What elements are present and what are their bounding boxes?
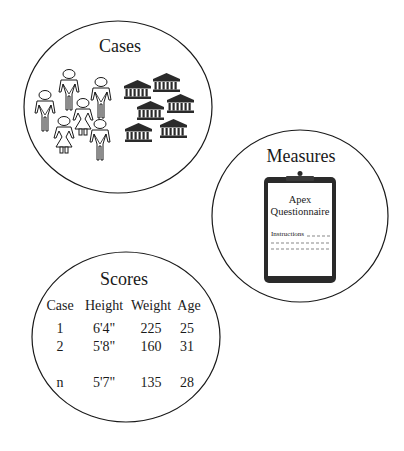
- measures-group: Measures Apex Questionnaire Instructions: [212, 130, 388, 302]
- male-figure-icon: [35, 91, 55, 132]
- scores-title: Scores: [100, 269, 148, 289]
- cell-weight: 225: [141, 321, 162, 336]
- cell-case: 2: [57, 339, 64, 354]
- cell-age: 28: [180, 375, 194, 390]
- measures-title: Measures: [267, 146, 336, 166]
- scores-group: Scores Case Height Weight Age 1 6'4" 225…: [32, 252, 220, 422]
- female-figure-icon: [73, 99, 93, 136]
- clipboard-title-line1: Apex: [289, 194, 312, 205]
- header-case: Case: [46, 298, 73, 313]
- male-figure-icon: [90, 120, 110, 161]
- cell-height: 6'4": [93, 321, 115, 336]
- header-age: Age: [177, 298, 200, 313]
- buildings-group: [124, 73, 194, 142]
- bank-building-icon: [137, 101, 164, 120]
- diagram-canvas: Cases Measures Apex Questionn: [0, 0, 404, 451]
- cell-age: 25: [180, 321, 194, 336]
- clipboard-instructions: Instructions: [271, 230, 304, 238]
- bank-building-icon: [153, 73, 180, 92]
- scores-header-row: Case Height Weight Age: [46, 298, 200, 313]
- cell-weight: 135: [141, 375, 162, 390]
- bank-building-icon: [125, 123, 152, 142]
- header-weight: Weight: [131, 298, 171, 313]
- clipboard-icon: Apex Questionnaire Instructions: [264, 171, 336, 283]
- cases-group: Cases: [24, 21, 212, 193]
- people-group: [35, 70, 111, 161]
- male-figure-icon: [59, 70, 79, 111]
- clipboard-title-line2: Questionnaire: [271, 206, 330, 217]
- scores-table: Case Height Weight Age 1 6'4" 225 25 2 5…: [46, 298, 200, 390]
- scores-row: n 5'7" 135 28: [57, 375, 195, 390]
- header-height: Height: [85, 298, 123, 313]
- cases-title: Cases: [99, 36, 141, 56]
- cell-height: 5'7": [93, 375, 115, 390]
- cell-height: 5'8": [93, 339, 115, 354]
- bank-building-icon: [160, 119, 187, 138]
- male-figure-icon: [91, 78, 111, 119]
- scores-row: 1 6'4" 225 25: [57, 321, 195, 336]
- cell-age: 31: [180, 339, 194, 354]
- cell-case: 1: [57, 321, 64, 336]
- cell-case: n: [57, 375, 64, 390]
- scores-row: 2 5'8" 160 31: [57, 339, 195, 354]
- female-figure-icon: [54, 117, 74, 154]
- bank-building-icon: [167, 94, 194, 113]
- bank-building-icon: [124, 80, 151, 99]
- cell-weight: 160: [141, 339, 162, 354]
